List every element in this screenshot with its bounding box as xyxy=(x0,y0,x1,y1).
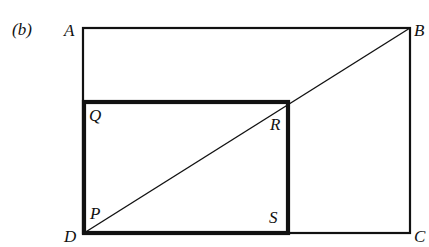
vertex-label-s: S xyxy=(269,209,278,226)
vertex-label-c: C xyxy=(414,228,425,245)
vertex-label-r: R xyxy=(270,116,280,133)
vertex-label-p: P xyxy=(90,205,100,222)
vertex-label-d: D xyxy=(64,228,76,245)
vertex-label-a: A xyxy=(64,22,74,39)
vertex-label-b: B xyxy=(414,22,424,39)
part-label: (b) xyxy=(12,21,32,38)
diagonal-db xyxy=(84,28,410,233)
vertex-label-q: Q xyxy=(89,107,101,124)
